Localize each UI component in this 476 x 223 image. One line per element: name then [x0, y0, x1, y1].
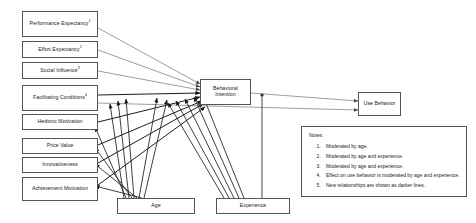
edge-bi-ub — [251, 93, 358, 101]
notes-list: Moderated by age. Moderated by age and e… — [309, 143, 460, 188]
node-innovativeness[interactable]: Innovativeness — [22, 157, 98, 173]
node-achievement-motivation[interactable]: Achievement Motivation — [22, 177, 98, 201]
note-item: New relationships are shown as darker li… — [322, 182, 460, 188]
edge-exp-ee — [176, 101, 229, 198]
edge-age-ee — [126, 99, 134, 198]
edges-new-predictors-to-bi — [98, 93, 205, 185]
notes-title: Notes: — [309, 132, 460, 138]
note-item: Moderated by age. — [322, 143, 460, 149]
notes-panel: Notes: Moderated by age. Moderated by ag… — [301, 126, 467, 197]
node-experience-label: Experience — [240, 203, 266, 209]
node-price-value-label: Price Value — [47, 143, 74, 149]
edge-age-si — [139, 98, 157, 198]
superscript-2: 2 — [80, 45, 82, 49]
edge-si-bi — [98, 71, 200, 90]
superscript-4: 4 — [85, 93, 87, 97]
superscript-3: 3 — [78, 66, 80, 70]
node-use-behavior[interactable]: Use Behavior — [358, 92, 401, 116]
note-item: Moderated by age and experience. — [322, 153, 460, 159]
edge-pe-bi — [98, 28, 200, 84]
edge-hm-bi — [98, 97, 200, 122]
node-price-value[interactable]: Price Value — [22, 138, 98, 154]
node-experience[interactable]: Experience — [216, 198, 290, 214]
node-performance-expectancy[interactable]: Performance Expectancy1 — [22, 11, 98, 37]
edge-ee-bi — [98, 50, 200, 87]
edge-age-pe — [118, 101, 129, 198]
node-innovativeness-label: Innovativeness — [42, 162, 77, 168]
note-item: Moderated by age and experience. — [322, 163, 460, 169]
edge-exp-hm — [194, 97, 239, 198]
research-model-diagram: Performance Expectancy1 Effort Expectanc… — [0, 0, 476, 223]
edge-inv-bi — [98, 104, 203, 163]
edge-exp-bi — [203, 96, 244, 198]
node-achievement-motivation-label: Achievement Motivation — [32, 186, 88, 192]
edge-pv-bi — [98, 101, 202, 145]
node-behavioral-intention-label: Behavioral Intention — [203, 86, 248, 98]
edge-fc-bi — [98, 93, 200, 95]
edges-age-moderators — [95, 98, 167, 198]
edge-exp-fc — [168, 103, 224, 198]
edges-predictors-to-bi — [98, 28, 200, 90]
node-facilitating-conditions-label: Facilitating Conditions4 — [33, 95, 87, 101]
edge-age-hm — [144, 100, 167, 198]
edge-age-pv — [95, 127, 126, 198]
node-age[interactable]: Age — [117, 198, 195, 214]
node-use-behavior-label: Use Behavior — [364, 101, 396, 107]
node-hedonic-motivation-label: Hedonic Motivation — [37, 119, 82, 125]
moderator-node-dot — [260, 93, 263, 96]
edge-experience-to-bi-ub-link — [260, 93, 263, 198]
edges-experience-moderators — [168, 96, 244, 198]
node-effort-expectancy-label: Effort Expectancy2 — [38, 47, 81, 53]
node-social-influence[interactable]: Social Influence3 — [22, 62, 98, 79]
node-behavioral-intention[interactable]: Behavioral Intention — [200, 79, 251, 105]
edge-age-inv — [95, 148, 132, 198]
edge-age-fc — [110, 104, 124, 198]
edge-age-am — [95, 164, 137, 198]
node-hedonic-motivation[interactable]: Hedonic Motivation — [22, 114, 98, 130]
superscript-1: 1 — [89, 19, 91, 23]
edge-age-extra — [95, 186, 142, 198]
note-item: Effect on use behavior is moderated by a… — [322, 172, 460, 178]
node-performance-expectancy-label: Performance Expectancy1 — [29, 21, 90, 27]
node-effort-expectancy[interactable]: Effort Expectancy2 — [22, 41, 98, 58]
edge-exp-si — [185, 99, 234, 198]
node-age-label: Age — [151, 203, 160, 209]
node-facilitating-conditions[interactable]: Facilitating Conditions4 — [22, 85, 98, 111]
edge-am-bi — [98, 107, 205, 185]
node-social-influence-label: Social Influence3 — [40, 68, 80, 74]
